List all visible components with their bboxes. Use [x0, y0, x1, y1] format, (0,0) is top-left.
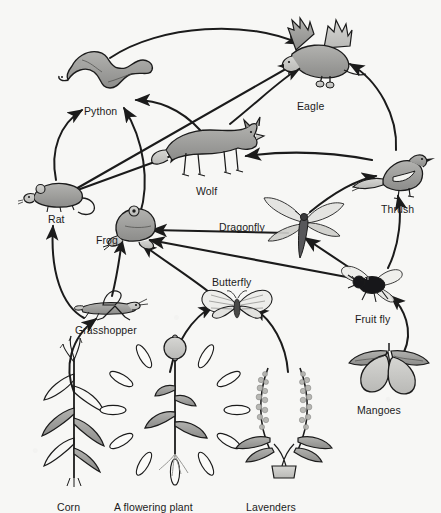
label-corn: Corn [57, 501, 80, 513]
organism-fruit-fly[interactable] [342, 266, 403, 302]
label-fruit-fly: Fruit fly [355, 313, 390, 325]
organism-butterfly[interactable] [202, 290, 272, 318]
label-rat: Rat [48, 213, 65, 225]
organism-lavenders[interactable] [236, 368, 332, 478]
label-butterfly: Butterfly [212, 276, 251, 288]
label-dragonfly: Dragonfly [219, 221, 265, 233]
label-lavenders: Lavenders [246, 501, 296, 513]
label-grasshopper: Grasshopper [75, 324, 137, 336]
organism-flowering-plant[interactable] [100, 335, 250, 485]
label-frog: Frog [96, 234, 118, 246]
label-mangoes: Mangoes [357, 404, 401, 416]
organism-dragonfly[interactable] [264, 198, 344, 258]
organism-eagle[interactable] [277, 18, 366, 88]
organism-rat[interactable] [18, 184, 94, 215]
organism-grasshopper[interactable] [74, 291, 148, 320]
organism-corn[interactable] [42, 336, 104, 487]
organism-mangoes[interactable] [349, 343, 429, 394]
organism-wolf[interactable] [152, 117, 264, 176]
label-wolf: Wolf [196, 185, 217, 197]
organism-python[interactable] [59, 52, 152, 88]
label-flowering-plant: A flowering plant [114, 501, 193, 513]
organism-thrush[interactable] [349, 155, 435, 199]
label-eagle: Eagle [297, 100, 324, 112]
label-python: Python [84, 105, 117, 117]
label-thrush: Thrush [381, 203, 414, 215]
